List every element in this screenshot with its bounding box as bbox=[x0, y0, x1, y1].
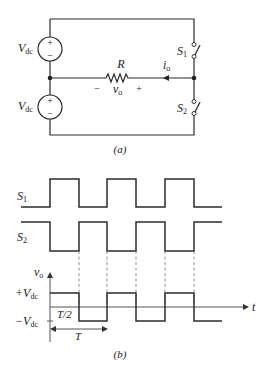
dc-source-top: + − Vdc bbox=[18, 37, 62, 61]
minus-sign: − bbox=[47, 108, 53, 119]
minus-sign: − bbox=[47, 50, 53, 61]
period-arrow-right-icon bbox=[102, 326, 108, 332]
switch-blade-icon bbox=[195, 45, 200, 55]
switch-s2: S2 bbox=[177, 100, 200, 117]
neg-level-label: −Vdc bbox=[15, 314, 38, 329]
switch-blade-icon bbox=[195, 102, 200, 112]
pos-level-label: +Vdc bbox=[15, 286, 38, 301]
junction-dot-left bbox=[48, 76, 53, 81]
s2-label: S2 bbox=[177, 101, 187, 116]
half-bridge-inverter-figure: + − Vdc + − Vdc R io − vo + S1 bbox=[0, 0, 273, 377]
caption-a: (a) bbox=[114, 143, 127, 156]
vo-plus: + bbox=[136, 83, 142, 94]
s1-label: S1 bbox=[177, 44, 187, 59]
vo-label: vo bbox=[113, 82, 122, 97]
caption-b: (b) bbox=[114, 348, 127, 361]
source-bottom-label: Vdc bbox=[18, 99, 33, 114]
vo-minus: − bbox=[94, 83, 100, 94]
vo-axis-label: vo bbox=[34, 265, 43, 280]
junction-dot-right bbox=[192, 76, 197, 81]
s1-waveform bbox=[21, 179, 222, 207]
t-axis-label: t bbox=[252, 300, 256, 314]
plus-sign: + bbox=[47, 37, 53, 48]
circuit-diagram: + − Vdc + − Vdc R io − vo + S1 bbox=[18, 19, 200, 156]
dc-source-bottom: + − Vdc bbox=[18, 95, 62, 119]
top-wire bbox=[50, 19, 194, 44]
switch-terminal-icon bbox=[192, 100, 196, 104]
half-period-label: T/2 bbox=[57, 308, 72, 320]
s2-waveform bbox=[21, 222, 222, 251]
bottom-wire bbox=[50, 114, 194, 135]
plus-sign: + bbox=[47, 95, 53, 106]
current-label: io bbox=[163, 58, 170, 73]
waveform-diagram: S1 S2 t vo +Vdc −Vdc T/2 T (b) bbox=[15, 179, 256, 361]
period-arrow-left-icon bbox=[50, 326, 56, 332]
resistor-label: R bbox=[116, 57, 125, 71]
switch-terminal-icon bbox=[192, 43, 196, 47]
switch-s1: S1 bbox=[177, 43, 200, 60]
s2-wave-label: S2 bbox=[17, 230, 27, 245]
period-label: T bbox=[75, 330, 82, 342]
resistor-branch bbox=[50, 74, 194, 82]
s1-wave-label: S1 bbox=[17, 189, 27, 204]
current-arrow-icon bbox=[163, 75, 169, 81]
source-top-label: Vdc bbox=[18, 41, 33, 56]
vo-axis-arrow-icon bbox=[47, 272, 53, 278]
t-axis-arrow-icon bbox=[243, 304, 249, 310]
